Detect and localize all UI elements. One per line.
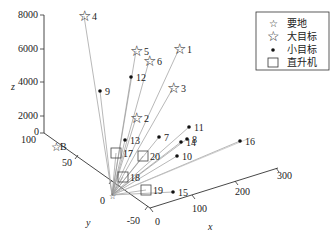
y-axis-label: y xyxy=(85,217,91,228)
legend-label-yaodi: 要地 xyxy=(287,17,307,29)
dot-icon xyxy=(98,89,102,93)
x-axis-label: x xyxy=(207,221,213,232)
z-tick-6000: 6000 xyxy=(18,43,38,54)
large-star-icon: ☆ xyxy=(78,8,91,24)
large-star-icon: ☆ xyxy=(173,41,186,57)
data-points: ☆1☆2☆3☆4☆5☆67891011121314151617181920 xyxy=(78,8,256,198)
x-tick-0: 0 xyxy=(155,216,160,227)
chart-3d-scatter: 8000 6000 4000 2000 0 z 100 50 0 -50 y 0… xyxy=(0,0,331,240)
y-tick-neg50: -50 xyxy=(127,215,140,226)
y-tick-0: 0 xyxy=(100,195,105,206)
point-label: 2 xyxy=(144,113,149,124)
point-label: 12 xyxy=(136,72,146,83)
small-star-icon: ☆ xyxy=(109,192,116,201)
point-label: 18 xyxy=(130,172,140,183)
z-tick-2000: 2000 xyxy=(18,110,38,121)
x-axis: 0 100 200 300 x xyxy=(150,168,292,232)
z-axis-label: z xyxy=(10,81,15,92)
x-tick-300: 300 xyxy=(277,170,292,181)
origin-b-marker: ☆ B xyxy=(51,140,68,154)
point-label: 11 xyxy=(194,122,204,133)
origin-b-label: B xyxy=(60,141,67,152)
point-label: 10 xyxy=(182,151,192,162)
dot-icon xyxy=(123,138,127,142)
trajectory-lines xyxy=(84,16,240,195)
large-star-icon: ☆ xyxy=(130,43,143,59)
x-tick-100: 100 xyxy=(192,203,207,214)
y-tick-50: 50 xyxy=(62,157,72,168)
small-star-icon: ☆ xyxy=(269,18,278,29)
legend-label-large-target: 大目标 xyxy=(287,30,317,42)
point-label: 17 xyxy=(123,148,133,159)
legend-label-small-target: 小目标 xyxy=(287,44,317,55)
point-label: 14 xyxy=(186,137,196,148)
point-label: 16 xyxy=(245,136,255,147)
legend-label-helicopter: 直升机 xyxy=(287,56,317,68)
y-tick-100: 100 xyxy=(21,134,36,145)
point-label: 4 xyxy=(92,11,97,22)
z-axis: 8000 6000 4000 2000 0 z xyxy=(10,9,44,137)
trajectory-line xyxy=(84,16,112,195)
point-label: 3 xyxy=(181,83,186,94)
large-star-icon: ☆ xyxy=(267,29,280,44)
dot-icon xyxy=(129,75,133,79)
dot-icon xyxy=(179,140,183,144)
large-star-icon: ☆ xyxy=(167,80,180,96)
dot-icon xyxy=(157,135,161,139)
point-label: 19 xyxy=(153,185,163,196)
launch-origin: ☆ xyxy=(109,192,116,201)
legend: ☆ 要地 ☆ 大目标 小目标 直升机 xyxy=(256,12,329,70)
x-tick-200: 200 xyxy=(235,186,250,197)
large-star-icon: ☆ xyxy=(143,53,156,69)
point-label: 6 xyxy=(157,56,162,67)
dot-icon xyxy=(238,139,242,143)
point-label: 13 xyxy=(130,135,140,146)
trajectory-line xyxy=(112,156,177,195)
point-label: 7 xyxy=(164,132,169,143)
z-tick-4000: 4000 xyxy=(18,76,38,87)
trajectory-line xyxy=(100,91,112,195)
z-tick-8000: 8000 xyxy=(18,9,38,20)
point-label: 1 xyxy=(187,44,192,55)
point-label: 9 xyxy=(105,86,110,97)
large-star-icon: ☆ xyxy=(130,110,143,126)
point-label: 20 xyxy=(150,151,160,162)
dot-icon xyxy=(175,154,179,158)
point-label: 15 xyxy=(178,187,188,198)
dot-icon xyxy=(171,190,175,194)
dot-icon xyxy=(271,48,275,52)
dot-icon xyxy=(187,125,191,129)
